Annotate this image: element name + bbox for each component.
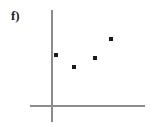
x-axis-line (30, 105, 145, 107)
data-point (93, 56, 97, 60)
data-point (109, 37, 113, 41)
data-point (54, 53, 58, 57)
plot-area (0, 0, 157, 127)
data-point (72, 65, 76, 69)
figure-panel: f) (0, 0, 157, 127)
